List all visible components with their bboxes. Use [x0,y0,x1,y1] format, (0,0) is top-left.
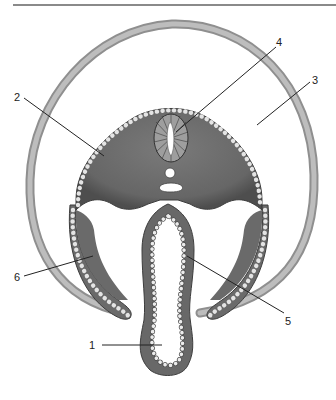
embryo-diagram: 1 2 3 4 5 6 [0,0,336,400]
label-3: 3 [312,74,318,86]
notochord [165,168,175,178]
label-4: 4 [276,36,282,48]
label-5: 5 [285,315,291,327]
label-1: 1 [89,339,95,351]
label-2: 2 [14,91,20,103]
label-6: 6 [14,271,20,283]
neural-tube [154,114,188,162]
leader-4 [176,47,276,132]
dorsal-cavity [159,183,182,192]
gut-tube [140,204,194,375]
